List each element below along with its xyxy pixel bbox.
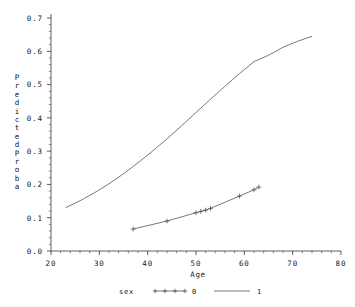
data-point-marker-plus [198, 209, 203, 214]
data-point-marker-plus [165, 219, 170, 224]
x-tick-label: 50 [191, 259, 202, 268]
data-series-layer [66, 36, 313, 231]
legend-label-0: 0 [192, 288, 197, 296]
y-tick-label: 0.1 [27, 214, 43, 223]
data-point-marker-plus [208, 206, 213, 211]
y-tick-label: 0.5 [27, 80, 43, 89]
legend-label-1: 1 [257, 288, 262, 296]
data-point-marker-plus [237, 194, 242, 199]
y-tick-labels: 0.00.10.20.30.40.50.60.7 [27, 14, 43, 256]
y-tick-label: 0.6 [27, 47, 43, 56]
x-tick-label: 70 [287, 259, 298, 268]
y-tick-label: 0.7 [27, 14, 43, 23]
y-tick-label: 0.0 [27, 247, 43, 256]
x-tick-label: 20 [46, 259, 57, 268]
chart-legend: sex01 [119, 288, 262, 296]
y-tick-label: 0.4 [27, 114, 43, 123]
chart-plot-area: 0.00.10.20.30.40.50.60.7 20304050607080 … [0, 0, 355, 307]
legend-marker-plus [153, 289, 157, 293]
legend-title: sex [119, 288, 134, 296]
chart-container: P r e d i c t e d P r o b a 0.00.10.20.3… [0, 0, 355, 307]
data-point-marker-plus [131, 227, 136, 232]
x-tick-labels: 20304050607080 [46, 259, 347, 268]
y-tick-label: 0.2 [27, 180, 43, 189]
x-tick-label: 40 [142, 259, 153, 268]
series-line-0 [133, 187, 259, 229]
y-tick-marks [47, 18, 51, 251]
x-tick-marks [51, 251, 341, 255]
x-tick-label: 80 [336, 259, 347, 268]
data-point-marker-plus [203, 208, 208, 213]
data-point-marker-plus [252, 187, 257, 192]
x-axis-title: Age [190, 270, 205, 279]
legend-marker-plus [163, 289, 167, 293]
data-point-marker-plus [256, 185, 261, 190]
x-tick-label: 60 [239, 259, 250, 268]
y-tick-label: 0.3 [27, 147, 43, 156]
legend-marker-plus [183, 289, 187, 293]
data-point-marker-plus [194, 210, 199, 215]
legend-marker-plus [173, 289, 177, 293]
x-tick-label: 30 [94, 259, 105, 268]
series-line-1 [66, 36, 313, 207]
